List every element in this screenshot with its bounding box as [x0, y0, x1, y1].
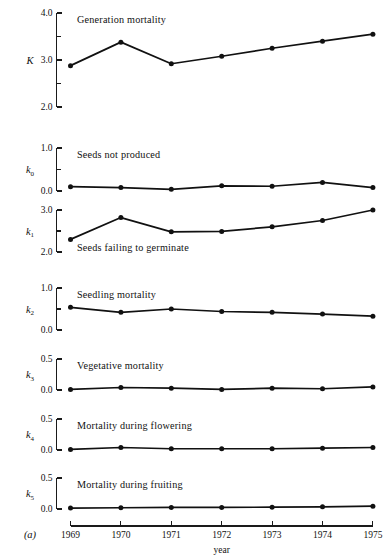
panel-k3: 0.00.5k3Vegetative mortality	[26, 354, 375, 395]
data-line	[71, 210, 373, 239]
panel-title: Mortality during fruiting	[77, 479, 183, 490]
y-tick-label: 0.0	[41, 504, 53, 514]
figure-label: (a)	[24, 529, 37, 541]
data-point	[68, 305, 73, 310]
data-point	[370, 384, 375, 389]
data-point	[219, 183, 224, 188]
data-point	[169, 61, 174, 66]
y-tick-label: 3.0	[41, 205, 53, 215]
data-point	[219, 54, 224, 59]
data-point	[118, 385, 123, 390]
y-tick-label: 0.5	[41, 414, 53, 424]
data-point	[68, 237, 73, 242]
y-tick-label: 0.5	[41, 354, 53, 364]
data-point	[169, 446, 174, 451]
data-point	[320, 504, 325, 509]
axis-variable-label: k5	[26, 488, 35, 502]
data-point	[219, 309, 224, 314]
axis-variable-label: k4	[26, 429, 35, 443]
data-point	[118, 505, 123, 510]
data-point	[270, 184, 275, 189]
data-point	[270, 224, 275, 229]
panel-k2: 0.01.0k2Seedling mortality	[26, 283, 375, 335]
panel-title: Seeds not produced	[77, 149, 160, 160]
k-value-mortality-figure: 2.03.04.0KGeneration mortality0.01.0k0Se…	[0, 0, 388, 558]
data-point	[118, 185, 123, 190]
panel-title: Mortality during flowering	[77, 420, 192, 431]
data-point	[169, 386, 174, 391]
data-point	[370, 32, 375, 37]
data-point	[68, 506, 73, 511]
data-point	[219, 229, 224, 234]
y-tick-label: 2.0	[41, 247, 53, 257]
x-tick-label: 1974	[313, 530, 332, 540]
y-tick-label: 0.0	[41, 385, 53, 395]
y-tick-label: 0.0	[41, 445, 53, 455]
x-tick-label: 1969	[61, 530, 80, 540]
axis-variable-label: k3	[26, 369, 35, 383]
data-point	[320, 180, 325, 185]
data-point	[68, 387, 73, 392]
panel-k0: 0.01.0k0Seeds not produced	[26, 143, 375, 196]
axis-variable-label: k0	[26, 164, 35, 178]
data-point	[118, 310, 123, 315]
data-point	[169, 505, 174, 510]
data-point	[320, 218, 325, 223]
data-point	[68, 184, 73, 189]
data-point	[370, 314, 375, 319]
data-point	[270, 46, 275, 51]
x-tick-label: 1970	[111, 530, 130, 540]
data-point	[270, 386, 275, 391]
x-tick-label: 1973	[263, 530, 282, 540]
data-point	[219, 446, 224, 451]
data-point	[370, 208, 375, 213]
data-point	[370, 504, 375, 509]
x-axis: 1969197019711972197319741975year(a)	[24, 521, 383, 555]
data-point	[320, 386, 325, 391]
x-tick-label: 1975	[363, 530, 382, 540]
x-tick-label: 1972	[212, 530, 231, 540]
data-point	[219, 387, 224, 392]
panel-title: Seeds failing to germinate	[77, 242, 189, 253]
data-point	[270, 310, 275, 315]
panel-k1: 2.03.0k1Seeds failing to germinate	[26, 205, 375, 257]
axis-variable-label: K	[25, 55, 34, 66]
x-tick-label: 1971	[162, 530, 181, 540]
data-point	[118, 40, 123, 45]
mortality-panels-svg: 2.03.04.0KGeneration mortality0.01.0k0Se…	[0, 0, 388, 558]
data-line	[71, 34, 373, 65]
y-tick-label: 3.0	[41, 55, 53, 65]
data-point	[169, 229, 174, 234]
panel-title: Vegetative mortality	[77, 360, 165, 371]
data-point	[370, 445, 375, 450]
data-point	[320, 312, 325, 317]
data-point	[68, 63, 73, 68]
y-tick-label: 1.0	[41, 283, 53, 293]
data-point	[320, 39, 325, 44]
data-point	[370, 185, 375, 190]
panel-K: 2.03.04.0KGeneration mortality	[25, 8, 375, 112]
panel-k5: 0.00.5k5Mortality during fruiting	[26, 473, 375, 514]
data-point	[270, 446, 275, 451]
y-tick-label: 4.0	[41, 8, 53, 18]
axis-variable-label: k2	[26, 304, 35, 318]
axis-variable-label: k1	[26, 226, 35, 240]
data-point	[169, 307, 174, 312]
data-point	[219, 505, 224, 510]
data-point	[68, 447, 73, 452]
data-point	[118, 215, 123, 220]
panel-title: Seedling mortality	[77, 289, 157, 300]
data-point	[270, 505, 275, 510]
y-tick-label: 1.0	[41, 143, 53, 153]
panel-k4: 0.00.5k4Mortality during flowering	[26, 414, 375, 455]
y-tick-label: 0.5	[41, 473, 53, 483]
y-tick-label: 2.0	[41, 102, 53, 112]
data-point	[169, 187, 174, 192]
x-axis-title: year	[214, 545, 231, 555]
y-tick-label: 0.0	[41, 325, 53, 335]
y-tick-label: 0.0	[41, 186, 53, 196]
panel-title: Generation mortality	[77, 14, 167, 25]
data-point	[320, 446, 325, 451]
data-point	[118, 445, 123, 450]
